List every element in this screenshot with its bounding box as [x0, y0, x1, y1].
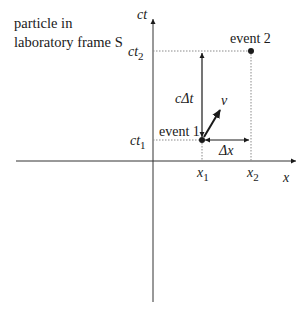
event-1-dot — [199, 137, 205, 143]
caption-line-1: particle in — [14, 15, 73, 31]
event-2-dot — [248, 48, 254, 54]
ct-axis-label: ct — [137, 7, 148, 22]
spacetime-diagram: particle in laboratory frame S ct x ct2 … — [0, 0, 305, 313]
time-interval-label: cΔt — [175, 91, 194, 106]
x-axis-label: x — [282, 170, 290, 185]
velocity-label: v — [221, 93, 228, 108]
caption-line-2: laboratory frame S — [14, 34, 123, 50]
velocity-arrow — [204, 110, 220, 137]
ct1-label: ct1 — [130, 133, 146, 151]
ct2-label: ct2 — [128, 44, 144, 62]
event-2-label: event 2 — [230, 31, 271, 46]
x1-label: x1 — [196, 165, 209, 183]
space-interval-label: Δx — [218, 143, 234, 158]
event-1-label: event 1 — [159, 124, 200, 139]
x2-label: x2 — [246, 165, 259, 183]
